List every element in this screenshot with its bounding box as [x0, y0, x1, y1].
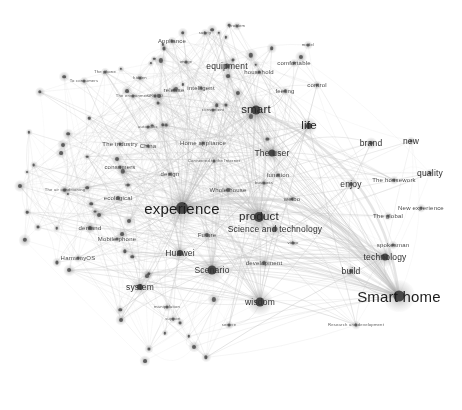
- graph-node[interactable]: [77, 257, 80, 260]
- graph-node[interactable]: [262, 261, 266, 265]
- graph-node[interactable]: [254, 63, 257, 66]
- graph-node[interactable]: [410, 140, 413, 143]
- graph-node[interactable]: [125, 89, 129, 93]
- graph-node[interactable]: [254, 212, 264, 222]
- graph-node[interactable]: [228, 324, 231, 327]
- graph-node[interactable]: [116, 196, 120, 200]
- graph-node[interactable]: [192, 345, 196, 349]
- graph-node[interactable]: [252, 106, 261, 115]
- graph-node[interactable]: [60, 151, 64, 155]
- graph-node[interactable]: [316, 84, 319, 87]
- graph-node[interactable]: [137, 284, 143, 290]
- graph-node[interactable]: [393, 179, 396, 182]
- graph-node[interactable]: [83, 80, 86, 83]
- graph-node[interactable]: [139, 77, 142, 80]
- graph-node[interactable]: [26, 211, 29, 214]
- graph-node[interactable]: [273, 227, 278, 232]
- graph-node[interactable]: [157, 102, 160, 105]
- graph-node[interactable]: [306, 123, 312, 129]
- graph-node[interactable]: [89, 202, 93, 206]
- graph-node[interactable]: [177, 250, 183, 256]
- graph-node[interactable]: [277, 174, 280, 177]
- graph-node[interactable]: [387, 215, 390, 218]
- graph-node[interactable]: [32, 164, 35, 167]
- graph-node[interactable]: [291, 198, 294, 201]
- graph-node[interactable]: [181, 31, 185, 35]
- graph-node[interactable]: [200, 87, 203, 90]
- graph-node[interactable]: [61, 143, 65, 147]
- graph-node[interactable]: [213, 160, 216, 163]
- graph-node[interactable]: [225, 64, 230, 69]
- graph-node[interactable]: [132, 95, 135, 98]
- graph-node[interactable]: [147, 145, 150, 148]
- graph-node[interactable]: [420, 207, 423, 210]
- graph-node[interactable]: [119, 143, 122, 146]
- graph-node[interactable]: [284, 90, 287, 93]
- network-graph-figure: Smart homeexperiencesmartproductScenario…: [0, 0, 462, 410]
- graph-node[interactable]: [369, 141, 373, 145]
- graph-node[interactable]: [89, 227, 92, 230]
- graph-node[interactable]: [263, 182, 266, 185]
- graph-node[interactable]: [36, 226, 39, 229]
- graph-node[interactable]: [429, 172, 432, 175]
- graph-node[interactable]: [171, 40, 174, 43]
- graph-node[interactable]: [269, 150, 276, 157]
- graph-node[interactable]: [154, 95, 157, 98]
- graph-node[interactable]: [56, 227, 59, 230]
- graph-node[interactable]: [204, 32, 207, 35]
- graph-node[interactable]: [169, 173, 172, 176]
- graph-node[interactable]: [173, 89, 176, 92]
- graph-node[interactable]: [116, 238, 119, 241]
- graph-node[interactable]: [172, 318, 175, 321]
- graph-node[interactable]: [119, 166, 122, 169]
- graph-node[interactable]: [147, 126, 150, 129]
- graph-node[interactable]: [226, 74, 230, 78]
- graph-node[interactable]: [119, 318, 123, 322]
- graph-node[interactable]: [210, 28, 214, 32]
- graph-node[interactable]: [270, 47, 274, 51]
- graph-node[interactable]: [176, 202, 188, 214]
- graph-node[interactable]: [292, 242, 295, 245]
- graph-node[interactable]: [355, 324, 358, 327]
- graph-node[interactable]: [121, 232, 125, 236]
- graph-node[interactable]: [382, 254, 389, 261]
- graph-node[interactable]: [68, 268, 72, 272]
- graph-node[interactable]: [226, 188, 230, 192]
- graph-node[interactable]: [212, 109, 215, 112]
- graph-node[interactable]: [349, 182, 353, 186]
- graph-node[interactable]: [205, 233, 209, 237]
- graph-node[interactable]: [307, 44, 310, 47]
- graph-node[interactable]: [166, 306, 169, 309]
- graph-node[interactable]: [115, 157, 119, 161]
- graph-node[interactable]: [66, 132, 70, 136]
- graph-node[interactable]: [104, 71, 107, 74]
- graph-node[interactable]: [392, 244, 395, 247]
- graph-node[interactable]: [293, 62, 296, 65]
- graph-node[interactable]: [127, 184, 130, 187]
- graph-node[interactable]: [62, 75, 66, 79]
- graph-node[interactable]: [208, 266, 217, 275]
- graph-node[interactable]: [202, 142, 205, 145]
- graph-node[interactable]: [143, 359, 147, 363]
- graph-node[interactable]: [64, 189, 67, 192]
- graph-node[interactable]: [94, 210, 97, 213]
- graph-node[interactable]: [258, 71, 261, 74]
- graph-node[interactable]: [86, 186, 90, 190]
- graph-node[interactable]: [256, 298, 265, 307]
- graph-node[interactable]: [228, 24, 231, 27]
- graph-node[interactable]: [86, 155, 89, 158]
- graph-node[interactable]: [394, 291, 405, 302]
- graph-node[interactable]: [236, 25, 239, 28]
- graph-node[interactable]: [179, 322, 182, 325]
- graph-node[interactable]: [349, 269, 353, 273]
- graph-node[interactable]: [185, 61, 188, 64]
